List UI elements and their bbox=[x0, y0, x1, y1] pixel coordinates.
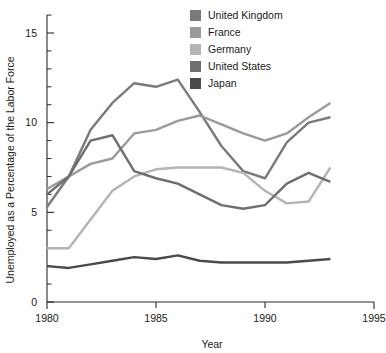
legend-item-label: France bbox=[208, 26, 241, 38]
legend-item: France bbox=[190, 24, 330, 40]
legend-swatch-icon bbox=[190, 10, 201, 21]
legend-swatch-icon bbox=[190, 27, 201, 38]
legend-item: United Kingdom bbox=[190, 7, 330, 23]
chart-legend: United KingdomFranceGermanyUnited States… bbox=[190, 7, 330, 92]
legend-item: United States bbox=[190, 58, 330, 74]
legend-swatch-icon bbox=[190, 78, 201, 89]
series-line-united-states bbox=[47, 135, 330, 209]
series-line-japan bbox=[47, 255, 330, 268]
legend-item-label: Germany bbox=[208, 43, 251, 55]
x-tick-label: 1980 bbox=[35, 312, 59, 324]
chart-series-lines bbox=[47, 80, 330, 268]
unemployment-line-chart: 0510151980198519901995 Year Unemployed a… bbox=[0, 0, 386, 353]
legend-item-label: United Kingdom bbox=[208, 9, 283, 21]
x-tick-label: 1995 bbox=[362, 312, 386, 324]
legend-swatch-icon bbox=[190, 61, 201, 72]
legend-item-label: United States bbox=[208, 60, 271, 72]
y-axis-title: Unemployed as a Percentage of the Labor … bbox=[4, 56, 16, 283]
x-tick-label: 1985 bbox=[144, 312, 168, 324]
x-axis-title: Year bbox=[201, 338, 223, 350]
y-tick-label: 0 bbox=[31, 296, 37, 308]
x-tick-label: 1990 bbox=[253, 312, 277, 324]
y-tick-label: 5 bbox=[31, 206, 37, 218]
series-line-france bbox=[47, 103, 330, 189]
y-tick-label: 10 bbox=[25, 116, 37, 128]
legend-item: Germany bbox=[190, 41, 330, 57]
legend-item-label: Japan bbox=[208, 77, 237, 89]
series-line-germany bbox=[47, 168, 330, 249]
legend-item: Japan bbox=[190, 75, 330, 91]
y-tick-label: 15 bbox=[25, 27, 37, 39]
legend-swatch-icon bbox=[190, 44, 201, 55]
